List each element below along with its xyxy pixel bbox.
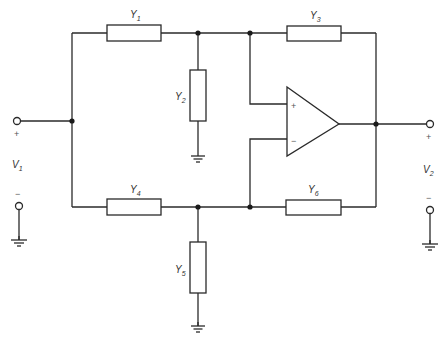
ground-icon	[191, 322, 205, 332]
input-terminal-plus	[14, 118, 21, 125]
wire-inverting	[250, 139, 287, 207]
label-y5: Y5	[175, 264, 186, 277]
circuit-diagram: + − Y1 Y3 Y2 Y4 Y6 Y5 + V1 − + V2 −	[0, 0, 446, 348]
label-y3: Y3	[310, 10, 321, 23]
admittance-y4	[107, 199, 161, 215]
ground-icon	[422, 240, 438, 250]
output-minus-sign: −	[426, 193, 431, 203]
admittance-y6	[286, 200, 341, 215]
opamp-plus-sign: +	[291, 101, 296, 111]
output-plus-sign: +	[426, 132, 431, 142]
junction-node-b	[195, 204, 200, 209]
input-minus-sign: −	[15, 189, 20, 199]
junction-input	[69, 118, 74, 123]
junction-feedback-bottom	[247, 204, 252, 209]
admittance-y3	[287, 26, 341, 41]
label-v1: V1	[12, 159, 23, 172]
admittance-y1	[107, 25, 161, 41]
output-terminal-minus	[427, 207, 434, 214]
junction-feedback-top	[247, 30, 252, 35]
junction-node-a	[195, 30, 200, 35]
label-y6: Y6	[308, 184, 319, 197]
admittance-y2	[190, 70, 206, 121]
opamp-minus-sign: −	[291, 136, 296, 146]
input-terminal-minus	[16, 203, 23, 210]
label-v2: V2	[423, 164, 434, 177]
label-y4: Y4	[130, 184, 141, 197]
ground-icon	[11, 236, 27, 246]
output-terminal-plus	[427, 121, 434, 128]
label-y1: Y1	[130, 9, 141, 22]
ground-icon	[191, 152, 205, 162]
label-y2: Y2	[175, 91, 186, 104]
wires	[19, 33, 430, 326]
input-plus-sign: +	[14, 129, 19, 139]
junction-output	[373, 121, 378, 126]
wire-noninverting	[250, 33, 287, 104]
admittance-y5	[190, 242, 206, 293]
